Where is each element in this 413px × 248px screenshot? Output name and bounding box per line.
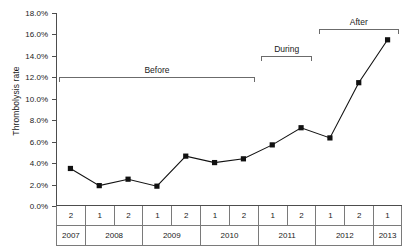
data-point-marker <box>298 125 303 130</box>
data-point-marker <box>356 80 361 85</box>
bracket-cap-right <box>398 29 399 34</box>
x-axis-half-year-cell: 2 <box>171 206 200 226</box>
x-axis-year-cell: 2009 <box>142 226 200 246</box>
data-point-marker <box>327 135 332 140</box>
data-point-marker <box>241 156 246 161</box>
x-axis-half-year-row: 212121212121 <box>56 206 402 226</box>
bracket-bar <box>59 77 255 78</box>
x-axis-half-year-cell: 2 <box>287 206 316 226</box>
x-axis-half-year-cell: 2 <box>56 206 85 226</box>
x-axis-half-year-cell: 2 <box>114 206 143 226</box>
data-point-marker <box>212 160 217 165</box>
x-axis-year-cell: 2012 <box>315 226 373 246</box>
bracket-label: After <box>319 17 400 27</box>
data-point-marker <box>97 183 102 188</box>
x-axis-year-cell: 2007 <box>56 226 85 246</box>
x-axis-year-cell: 2010 <box>200 226 258 246</box>
series-line <box>70 40 387 186</box>
x-axis-year-cell: 2011 <box>258 226 316 246</box>
x-axis-half-year-cell: 1 <box>200 206 229 226</box>
x-axis-half-year-cell: 1 <box>373 206 402 226</box>
bracket-cap-left <box>59 77 60 82</box>
data-point-marker <box>270 142 275 147</box>
data-point-marker <box>68 166 73 171</box>
x-axis-year-cell: 2013 <box>373 226 402 246</box>
x-axis-half-year-cell: 1 <box>258 206 287 226</box>
x-axis-half-year-cell: 1 <box>85 206 114 226</box>
x-axis-half-year-cell: 2 <box>229 206 258 226</box>
x-axis-half-year-cell: 2 <box>344 206 373 226</box>
bracket-cap-right <box>311 56 312 61</box>
bracket-bar <box>261 56 313 57</box>
bracket-cap-right <box>254 77 255 82</box>
bracket-bar <box>319 29 400 30</box>
data-point-marker <box>183 154 188 159</box>
data-point-marker <box>125 177 130 182</box>
x-axis-half-year-cell: 1 <box>315 206 344 226</box>
data-point-marker <box>385 37 390 42</box>
x-axis-half-year-cell: 1 <box>142 206 171 226</box>
thrombolysis-rate-chart: Thrombolysis rate 18.0%16.0%14.0%12.0%10… <box>0 0 413 248</box>
x-axis-year-cell: 2008 <box>85 226 143 246</box>
x-axis-year-row: 2007200820092010201120122013 <box>56 226 402 246</box>
bracket-cap-left <box>261 56 262 61</box>
data-point-marker <box>154 184 159 189</box>
bracket-cap-left <box>319 29 320 34</box>
bracket-label: During <box>261 44 313 54</box>
bracket-label: Before <box>59 65 255 75</box>
x-axis-period-table: 212121212121 200720082009201020112012201… <box>56 206 402 246</box>
